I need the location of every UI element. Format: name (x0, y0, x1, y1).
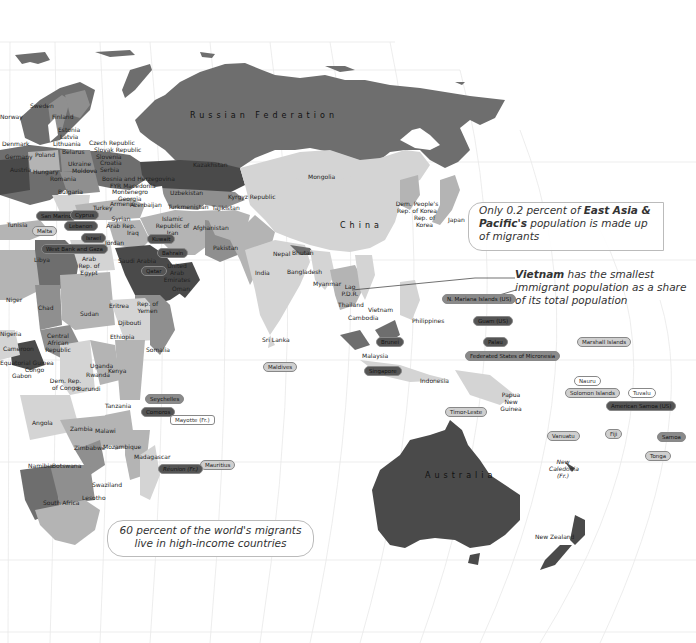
label-kenya: Kenya (108, 367, 126, 374)
australia (372, 420, 520, 548)
label-car: Central African Republic (44, 332, 72, 353)
pill-westbank: West Bank and Gaza (41, 244, 108, 254)
label-iraq: Iraq (127, 229, 139, 236)
label-japan: Japan (448, 216, 465, 223)
label-bangladesh: Bangladesh (287, 268, 322, 275)
pill-brunei: Brunei (376, 337, 404, 347)
label-china: China (340, 222, 383, 229)
pill-solomon: Solomon Islands (565, 388, 620, 398)
label-turkmenistan: Turkmenistan (168, 203, 208, 210)
label-czech: Czech Republic (89, 139, 135, 146)
pill-fiji: Fiji (605, 429, 622, 439)
callout-vietnam: Vietnam has the smallest immigrant popul… (515, 268, 695, 307)
label-bulgaria: Bulgaria (58, 188, 83, 195)
label-sweden: Sweden (30, 102, 54, 109)
label-srilanka: Sri Lanka (262, 336, 290, 343)
label-swaziland: Swaziland (92, 481, 122, 488)
label-yemen: Rep. of Yemen (135, 300, 160, 314)
label-oman: Oman (172, 285, 190, 292)
pill-guam: Guam (US) (473, 316, 513, 326)
label-myanmar: Myanmar (313, 280, 341, 287)
label-austria: Austria (10, 166, 31, 173)
label-laos: Lao P.D.R. (340, 283, 360, 297)
label-chad: Chad (38, 304, 53, 311)
label-poland: Poland (35, 151, 55, 158)
label-tanzania: Tanzania (105, 402, 131, 409)
label-madagascar: Madagascar (134, 453, 170, 460)
label-philippines: Philippines (412, 317, 444, 324)
pill-reunion: Réunion (Fr.) (158, 464, 203, 474)
label-indonesia: Indonesia (420, 377, 449, 384)
pill-samoa: Samoa (657, 432, 686, 442)
label-ukraine: Ukraine (68, 160, 91, 167)
pill-timor: Timor-Leste (445, 407, 487, 417)
label-thailand: Thailand (338, 301, 364, 308)
label-jordan: Jordan (105, 239, 124, 246)
label-gabon: Gabon (12, 372, 32, 379)
pill-lebanon: Lebanon (64, 221, 98, 231)
label-png: Papua New Guinea (497, 391, 525, 412)
label-finland: Finland (52, 113, 73, 120)
label-saudi: Saudi Arabia (118, 257, 156, 264)
world-map (0, 0, 696, 643)
label-australia: Australia (425, 472, 496, 479)
label-uzbekistan: Uzbekistan (170, 189, 203, 196)
label-estonia: Estonia (58, 126, 80, 133)
callout-east-asia-prefix: Only 0.2 percent of (479, 204, 584, 216)
label-tunisia: Tunisia (7, 221, 28, 228)
label-korea: Rep. of Korea (412, 214, 437, 228)
label-kyrgyz: Kyrgyz Republic (228, 193, 275, 200)
label-romania: Romania (50, 175, 76, 182)
label-latvia: Latvia (60, 133, 78, 140)
label-bhutan: Bhutan (292, 249, 314, 256)
label-syria: Syrian Arab Rep. (106, 215, 136, 229)
label-djibouti: Djibouti (118, 319, 141, 326)
label-belarus: Belarus (62, 148, 85, 155)
callout-east-asia-pacific: Only 0.2 percent of East Asia & Pacific'… (468, 202, 664, 251)
label-libya: Libya (34, 256, 50, 263)
label-eqguinea: Equatorial Guinea (0, 359, 54, 366)
label-zimbabwe: Zimbabwe (74, 444, 106, 451)
label-cambodia: Cambodia (348, 314, 378, 321)
label-india: India (255, 269, 270, 276)
label-dprk: Dem. People's Rep. of Korea (392, 200, 442, 214)
pill-micronesia: Federated States of Micronesia (465, 351, 560, 361)
callout-high-income-line2: live in high-income countries (108, 537, 313, 550)
callout-high-income-line1: 60 percent of the world's migrants (108, 524, 313, 537)
pill-cyprus: Cyprus (70, 210, 99, 220)
label-nepal: Nepal (273, 250, 290, 257)
pill-mauritius: Mauritius (200, 460, 235, 470)
label-mongolia: Mongolia (308, 173, 335, 180)
pill-tuvalu: Tuvalu (628, 388, 656, 398)
label-nigeria: Nigeria (0, 330, 21, 337)
label-hungary: Hungary (33, 168, 59, 175)
label-moldova: Moldova (72, 167, 97, 174)
label-azerbaijan: Azerbaijan (130, 201, 162, 208)
label-montenegro: Montenegro (112, 188, 148, 195)
label-southafrica: South Africa (43, 499, 79, 506)
label-mozambique: Mozambique (103, 443, 141, 450)
pill-israel: Israel (81, 233, 106, 243)
pill-seychelles: Seychelles (145, 394, 184, 404)
label-zambia: Zambia (70, 425, 93, 432)
label-uae: United Arab Emirates (162, 262, 192, 283)
label-somalia: Somalia (146, 346, 170, 353)
label-newzealand: New Zealand (535, 533, 574, 540)
pill-tonga: Tonga (645, 451, 671, 461)
label-malaysia: Malaysia (362, 352, 388, 359)
pill-vanuatu: Vanuatu (547, 431, 580, 441)
label-iran: Islamic Republic of Iran (150, 215, 195, 236)
label-malawi: Malawi (95, 427, 116, 434)
label-rwanda: Rwanda (86, 371, 110, 378)
label-serbia: Serbia (100, 166, 119, 173)
label-denmark: Denmark (2, 140, 30, 147)
label-vietnam: Vietnam (368, 306, 393, 313)
label-eritrea: Eritrea (109, 302, 129, 309)
label-russia: Russian Federation (190, 112, 338, 119)
pill-maldives: Maldives (263, 362, 297, 372)
label-egypt: Arab Rep. of Egypt (75, 255, 103, 276)
pill-marshall: Marshall Islands (577, 337, 631, 347)
label-bosnia: Bosnia and Herzegovina (102, 175, 175, 182)
pill-qatar: Qatar (141, 266, 167, 276)
label-afghanistan: Afghanistan (193, 224, 229, 231)
